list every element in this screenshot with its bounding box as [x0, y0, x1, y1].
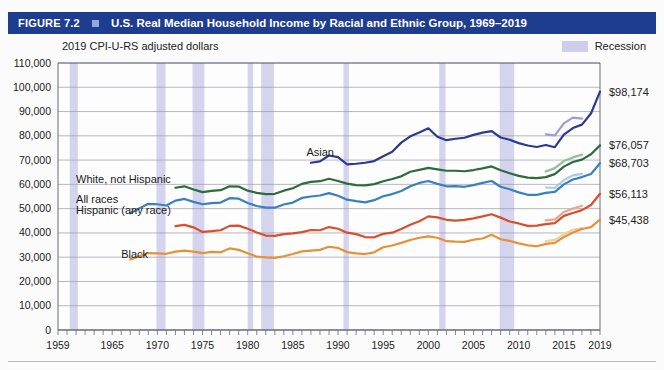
series-label-white-not-hispanic: White, not Hispanic	[76, 173, 171, 185]
end-value-label: $98,174	[609, 86, 649, 98]
figure-container: FIGURE 7.2 U.S. Real Median Household In…	[0, 0, 664, 370]
recession-band-5	[343, 63, 348, 330]
x-axis-tick-label: 1990	[326, 339, 350, 351]
x-axis-tick-label: 1995	[372, 339, 396, 351]
end-value-label: $56,113	[609, 188, 648, 200]
x-axis-tick-label: 1959	[46, 339, 70, 351]
recession-band-3	[248, 63, 253, 330]
recession-band-6	[439, 63, 445, 330]
y-axis-tick-label: 10,000	[19, 299, 51, 311]
x-axis-tick-label: 1965	[101, 339, 125, 351]
recession-band-7	[500, 63, 514, 330]
x-axis-tick-label: 2015	[552, 339, 576, 351]
x-axis-tick-label: 2010	[507, 339, 531, 351]
recession-band-1	[156, 63, 165, 330]
y-axis-tick-label: 40,000	[19, 226, 51, 238]
x-axis-tick-label: 2019	[588, 339, 612, 351]
x-axis-tick-label: 1975	[191, 339, 215, 351]
end-value-label: $45,438	[609, 214, 649, 226]
end-value-label: $68,703	[609, 157, 649, 169]
y-axis-tick-label: 30,000	[19, 251, 51, 263]
x-axis-tick-label: 2000	[417, 339, 441, 351]
series-label-black: Black	[121, 248, 148, 260]
plot-background	[58, 63, 600, 330]
y-axis-tick-label: 0	[45, 324, 51, 336]
figure-bottom-rule	[8, 361, 656, 362]
y-axis-tick-label: 60,000	[19, 178, 51, 190]
y-axis-tick-label: 70,000	[19, 154, 51, 166]
series-label-hispanic-any-race-: Hispanic (any race)	[76, 204, 171, 216]
x-axis-tick-label: 1985	[281, 339, 305, 351]
y-axis-tick-label: 100,000	[13, 81, 51, 93]
chart-plot-area: 010,00020,00030,00040,00050,00060,00070,…	[0, 0, 664, 370]
recession-band-2	[193, 63, 205, 330]
y-axis-tick-label: 50,000	[19, 202, 51, 214]
end-value-label: $76,057	[609, 139, 649, 151]
x-axis-tick-label: 1970	[146, 339, 170, 351]
line-chart-svg: 010,00020,00030,00040,00050,00060,00070,…	[0, 0, 664, 370]
y-axis-tick-label: 20,000	[19, 275, 51, 287]
recession-band-4	[261, 63, 274, 330]
y-axis-tick-label: 110,000	[14, 57, 51, 69]
series-label-asian: Asian	[306, 146, 334, 158]
y-axis-tick-label: 80,000	[19, 129, 51, 141]
y-axis-tick-label: 90,000	[19, 105, 51, 117]
x-axis-tick-label: 2005	[462, 339, 486, 351]
x-axis-tick-label: 1980	[236, 339, 260, 351]
